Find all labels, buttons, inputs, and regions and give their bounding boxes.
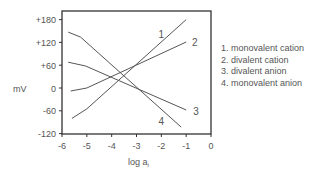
- line-label-1: 1: [159, 29, 165, 40]
- x-tick-label: 0: [208, 141, 213, 151]
- x-tick-label: -4: [108, 141, 116, 151]
- x-tick-label: -6: [58, 141, 66, 151]
- plot-frame: [62, 11, 211, 134]
- y-tick-label: -120: [38, 129, 56, 139]
- plot-lines: [68, 20, 186, 128]
- series-line-monovalent-cation: [72, 20, 186, 119]
- x-tick-label: -2: [157, 141, 165, 151]
- line-label-2: 2: [192, 37, 198, 48]
- legend-item-monovalent-cation: 1. monovalent cation: [221, 43, 304, 55]
- line-chart: +180+120+600-60-120 -6-5-4-3-2-10 1234 m…: [0, 0, 320, 178]
- x-tick-label: -1: [182, 141, 190, 151]
- x-axis-label: log ai: [128, 157, 149, 168]
- y-axis: +180+120+600-60-120: [36, 15, 62, 139]
- y-tick-label: +180: [36, 15, 56, 25]
- legend-item-monovalent-anion: 4. monovalent anion: [221, 78, 304, 90]
- line-label-4: 4: [159, 116, 165, 127]
- y-tick-label: +120: [36, 38, 56, 48]
- x-tick-label: -5: [83, 141, 91, 151]
- series-line-monovalent-anion: [68, 32, 181, 127]
- legend: 1. monovalent cation 2. divalent cation …: [221, 43, 304, 89]
- legend-item-divalent-cation: 2. divalent cation: [221, 55, 304, 67]
- x-tick-label: -3: [132, 141, 140, 151]
- x-axis-label-main: log a: [128, 157, 148, 167]
- y-axis-label: mV: [13, 84, 27, 94]
- legend-item-divalent-anion: 3. divalent anion: [221, 66, 304, 78]
- series-line-divalent-cation: [71, 42, 187, 91]
- y-tick-label: +60: [41, 61, 56, 71]
- x-axis: -6-5-4-3-2-10: [58, 134, 214, 151]
- y-tick-label: 0: [51, 84, 56, 94]
- x-axis-label-subscript: i: [148, 162, 149, 168]
- line-label-3: 3: [193, 106, 199, 117]
- y-tick-label: -60: [43, 106, 56, 116]
